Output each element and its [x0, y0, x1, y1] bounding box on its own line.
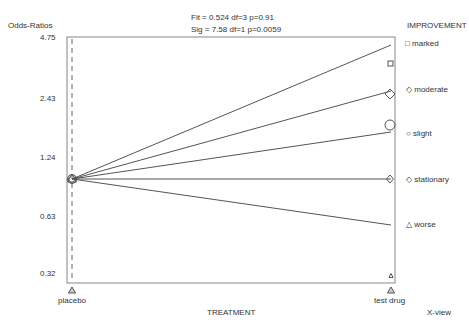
sig-statistic: Sig = 7.58 df=1 p=0.0059 — [191, 25, 281, 34]
testdrug-triangle-icon — [388, 287, 395, 293]
triangle-icon: △ — [406, 220, 412, 229]
legend-item-stationary: ◇ stationary — [406, 175, 449, 184]
placebo-triangle-icon — [69, 287, 76, 293]
marker-marked-square — [388, 61, 393, 66]
legend-item-slight: ○ slight — [406, 129, 432, 138]
line-slight — [72, 132, 391, 179]
y-tick-0-32: 0.32 — [40, 269, 56, 278]
x-axis-label: TREATMENT — [207, 308, 255, 317]
legend-item-marked: □ marked — [405, 39, 439, 48]
marker-moderate-diamond — [385, 89, 395, 99]
marker-slight-circle — [385, 120, 395, 130]
y-axis-label: Odds-Ratios — [8, 21, 52, 30]
y-tick-2-43: 2.43 — [40, 94, 56, 103]
fit-statistic: Fit = 0.524 df=3 p=0.91 — [191, 13, 274, 22]
line-worse — [72, 179, 391, 225]
x-category-placebo: placebo — [58, 296, 86, 305]
legend-item-moderate: ◇ moderate — [406, 85, 448, 94]
line-marked — [72, 45, 391, 179]
legend-item-worse: △ worse — [406, 220, 436, 229]
y-tick-1-24: 1.24 — [40, 153, 56, 162]
diamond-icon: ◇ — [406, 175, 412, 184]
y-tick-0-63: 0.63 — [40, 212, 56, 221]
y-tick-4-75: 4.75 — [40, 33, 56, 42]
line-moderate — [72, 91, 391, 179]
chart-canvas — [0, 0, 469, 335]
x-view-label: X-view — [427, 308, 451, 317]
diamond-icon: ◇ — [406, 85, 412, 94]
square-icon: □ — [405, 39, 410, 48]
marker-worse-triangle — [389, 274, 393, 278]
legend-title: IMPROVEMENT — [407, 21, 467, 30]
x-category-test-drug: test drug — [374, 296, 405, 305]
circle-icon: ○ — [406, 129, 411, 138]
